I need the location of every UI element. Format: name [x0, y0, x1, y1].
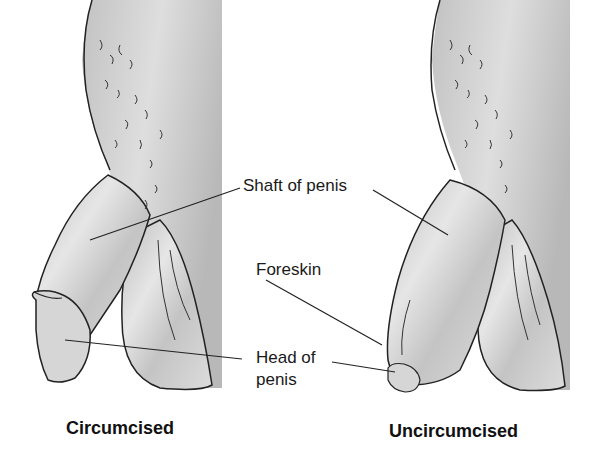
caption-circumcised: Circumcised: [66, 418, 174, 439]
caption-uncircumcised: Uncircumcised: [389, 421, 518, 442]
uncircumcised-figure: [387, 0, 570, 392]
anatomy-illustration: [0, 0, 597, 454]
head-label-line1: Head of: [256, 348, 316, 368]
head-label-line2: penis: [256, 370, 297, 390]
circumcised-figure: [32, 0, 222, 389]
shaft-label: Shaft of penis: [243, 176, 347, 196]
foreskin-label: Foreskin: [256, 260, 321, 280]
